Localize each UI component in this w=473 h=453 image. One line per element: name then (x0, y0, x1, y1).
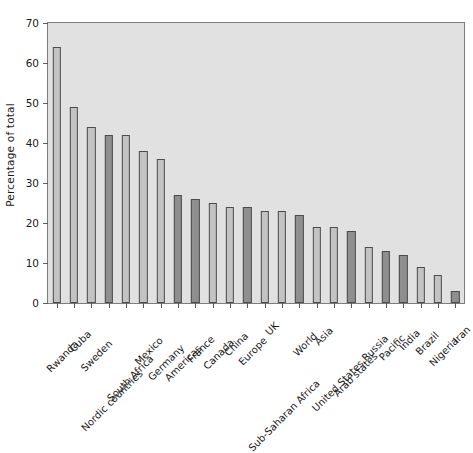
x-axis-tick-mark (126, 303, 127, 308)
x-axis-tick-mark (195, 303, 196, 308)
bar (174, 195, 182, 303)
x-axis-tick-mark (282, 303, 283, 308)
bar-slot (325, 23, 342, 303)
bar-slot (256, 23, 273, 303)
y-axis-tick-label: 40 (26, 137, 43, 149)
x-axis-tick-mark (369, 303, 370, 308)
bar-slot (221, 23, 238, 303)
bar-slot (377, 23, 394, 303)
x-axis-tick-label-text: South Africa (105, 353, 156, 404)
bar (122, 135, 130, 303)
y-axis-tick-label: 30 (26, 177, 43, 189)
bar-slot (83, 23, 100, 303)
x-axis-tick-mark (230, 303, 231, 308)
x-axis-tick-label: Cuba (86, 310, 112, 336)
x-axis-tick-mark (213, 303, 214, 308)
bar (70, 107, 78, 303)
bar (226, 207, 234, 303)
bar (191, 199, 199, 303)
bar-slot (48, 23, 65, 303)
x-axis-tick-label-text: World (291, 330, 319, 358)
plot-area: 010203040506070 RwandaCubaSwedenNordic c… (47, 22, 465, 304)
bar (347, 231, 355, 303)
bar (382, 251, 390, 303)
x-axis-tick-mark (351, 303, 352, 308)
x-axis-tick-mark (317, 303, 318, 308)
x-axis-tick-mark (299, 303, 300, 308)
y-axis-tick: 20 (2, 217, 48, 229)
x-axis-tick-mark (386, 303, 387, 308)
y-axis-tick-label: 20 (26, 217, 43, 229)
x-axis-tick-label-text: Sub-Saharan Africa (246, 378, 322, 453)
bar-series (48, 23, 464, 303)
bar-slot (360, 23, 377, 303)
bar-slot (152, 23, 169, 303)
bar-slot (65, 23, 82, 303)
bar-slot (447, 23, 464, 303)
x-axis-tick-mark (178, 303, 179, 308)
y-axis-tick-label: 70 (26, 17, 43, 29)
x-axis-tick-mark (161, 303, 162, 308)
x-axis-tick-mark (143, 303, 144, 308)
bar (243, 207, 251, 303)
x-axis-tick-mark (334, 303, 335, 308)
bar-slot (429, 23, 446, 303)
bar (261, 211, 269, 303)
bar-slot (412, 23, 429, 303)
bar (105, 135, 113, 303)
bar-slot (343, 23, 360, 303)
bar-slot (117, 23, 134, 303)
x-axis-tick-label-text: Iran (451, 324, 473, 346)
x-axis-tick-mark (403, 303, 404, 308)
bar-slot (169, 23, 186, 303)
x-axis-tick-mark (438, 303, 439, 308)
bar (209, 203, 217, 303)
bar (330, 227, 338, 303)
x-axis-tick-mark (421, 303, 422, 308)
bar (157, 159, 165, 303)
bar (295, 215, 303, 303)
y-axis-tick: 30 (2, 177, 48, 189)
y-axis-tick: 10 (2, 257, 48, 269)
y-axis-tick-label: 60 (26, 57, 43, 69)
bar-slot (291, 23, 308, 303)
x-axis-tick-mark (247, 303, 248, 308)
bar-slot (273, 23, 290, 303)
bar (434, 275, 442, 303)
y-axis-tick-label: 50 (26, 97, 43, 109)
bar-slot (308, 23, 325, 303)
bar (399, 255, 407, 303)
x-axis-tick-label: Iran (465, 310, 473, 332)
bar-slot (239, 23, 256, 303)
x-axis-tick-label-text: Cuba (67, 328, 93, 354)
bar (87, 127, 95, 303)
y-axis-tick: 40 (2, 137, 48, 149)
bar (139, 151, 147, 303)
bar (417, 267, 425, 303)
bar-slot (135, 23, 152, 303)
y-axis-title-text: Percentage of total (4, 103, 16, 207)
y-axis-tick: 50 (2, 97, 48, 109)
x-axis-tick-mark (265, 303, 266, 308)
x-axis-tick-mark (455, 303, 456, 308)
x-axis-tick-mark (91, 303, 92, 308)
bar (451, 291, 459, 303)
bar-slot (204, 23, 221, 303)
bar-slot (100, 23, 117, 303)
y-axis-tick-label: 10 (26, 257, 43, 269)
y-axis-tick-label: 0 (32, 297, 43, 309)
y-axis-tick: 0 (2, 297, 48, 309)
bar-slot (395, 23, 412, 303)
x-axis-tick-mark (57, 303, 58, 308)
x-axis-tick-mark (74, 303, 75, 308)
bar (53, 47, 61, 303)
bar (313, 227, 321, 303)
bar-slot (187, 23, 204, 303)
y-axis-tick: 60 (2, 57, 48, 69)
y-axis-tick: 70 (2, 17, 48, 29)
x-axis-tick-mark (109, 303, 110, 308)
x-axis-tick-label: Sweden (107, 310, 143, 346)
bar (278, 211, 286, 303)
bar (365, 247, 373, 303)
